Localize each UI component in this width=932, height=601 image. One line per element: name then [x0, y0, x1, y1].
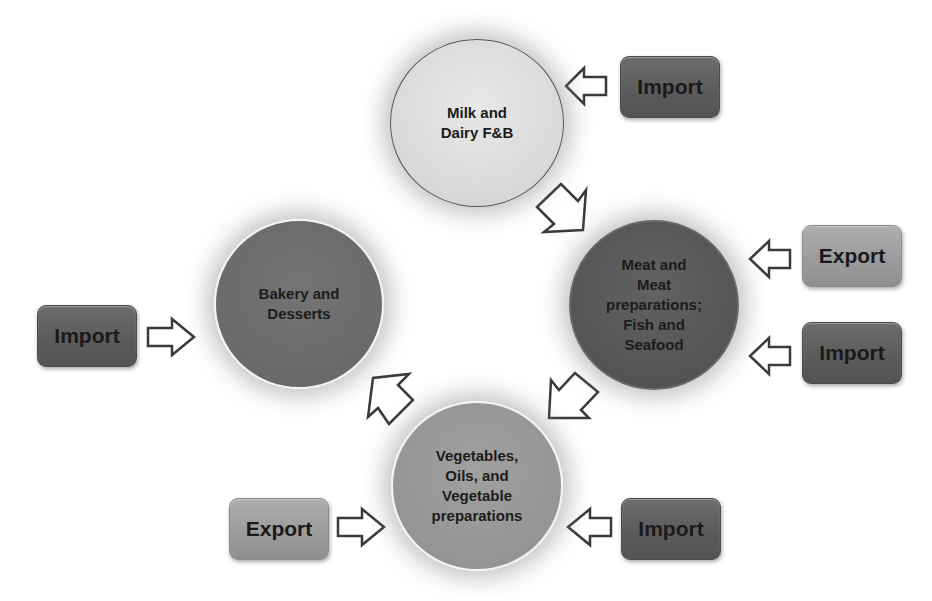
arrow-veg-to-bakery-icon [368, 374, 413, 424]
bakery-import-box: Import [37, 305, 137, 367]
meat-export-label: Export [819, 244, 886, 268]
arrow-meat-to-veg-icon [549, 373, 598, 418]
bakery-import-label: Import [54, 324, 119, 348]
veg-export-label: Export [246, 517, 313, 541]
meat-import-box: Import [802, 322, 902, 384]
node-vegetables-oils: Vegetables, Oils, and Vegetable preparat… [391, 401, 563, 571]
meat-import-label: Import [819, 341, 884, 365]
node-bakery-desserts-label: Bakery and Desserts [259, 284, 340, 324]
veg-import-label: Import [638, 517, 703, 541]
arrow-bakery-import-icon [148, 319, 194, 355]
node-bakery-desserts: Bakery and Desserts [214, 219, 384, 389]
meat-export-box: Export [802, 225, 902, 287]
node-vegetables-oils-label: Vegetables, Oils, and Vegetable preparat… [432, 446, 523, 526]
arrow-meat-export-icon [750, 241, 790, 277]
arrow-veg-export-icon [338, 509, 384, 545]
arrow-meat-import-icon [750, 338, 790, 374]
milk-import-box: Import [620, 56, 720, 118]
node-milk-dairy: Milk and Dairy F&B [390, 39, 564, 207]
arrow-milk-import-icon [566, 68, 606, 104]
milk-import-label: Import [637, 75, 702, 99]
node-meat-fish-label: Meat and Meat preparations; Fish and Sea… [606, 255, 702, 355]
veg-import-box: Import [621, 498, 721, 560]
arrow-veg-import-icon [568, 509, 611, 545]
veg-export-box: Export [229, 498, 329, 560]
food-trade-cycle-diagram: Milk and Dairy F&B Meat and Meat prepara… [0, 0, 932, 601]
node-milk-dairy-label: Milk and Dairy F&B [441, 103, 514, 143]
arrow-milk-to-meat-icon [537, 184, 586, 232]
node-meat-fish: Meat and Meat preparations; Fish and Sea… [569, 220, 739, 390]
